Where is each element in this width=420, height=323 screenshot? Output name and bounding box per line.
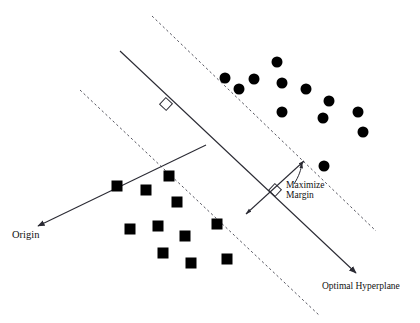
class-b-point — [272, 57, 283, 68]
class-a-point — [153, 221, 164, 232]
class-a-point — [222, 254, 233, 265]
maximize-margin-label: Maximize Margin — [286, 180, 325, 201]
class-b-point — [319, 161, 330, 172]
class-b-point — [301, 84, 312, 95]
class-b-point — [277, 78, 288, 89]
origin-label: Origin — [12, 229, 39, 240]
class-a-point — [112, 181, 123, 192]
data-markers-group — [112, 57, 369, 269]
margin-right-angle — [269, 184, 282, 197]
optimal-hyperplane-label: Optimal Hyperplane — [322, 281, 400, 291]
class-a-point — [141, 185, 152, 196]
class-a-point — [164, 171, 175, 182]
diagram-canvas — [0, 0, 420, 323]
class-b-point — [277, 107, 288, 118]
maximize-margin-line2: Margin — [286, 190, 325, 200]
maximize-margin-line1: Maximize — [286, 180, 325, 190]
class-b-point — [358, 127, 369, 138]
class-b-point — [324, 96, 335, 107]
class-a-point — [125, 224, 136, 235]
hyperplane-normal-right-angle — [160, 98, 173, 111]
class-a-point — [172, 197, 183, 208]
upper-margin-boundary — [152, 16, 376, 231]
lower-margin-boundary — [80, 90, 320, 316]
class-a-point — [186, 258, 197, 269]
class-a-point — [180, 231, 191, 242]
class-b-point — [353, 107, 364, 118]
svm-diagram-figure: Origin Optimal Hyperplane Maximize Margi… — [0, 0, 420, 323]
class-b-point — [249, 74, 260, 85]
class-b-point — [318, 113, 329, 124]
class-b-point — [220, 73, 231, 84]
class-a-point — [212, 219, 223, 230]
class-a-point — [158, 248, 169, 259]
class-b-point — [234, 84, 245, 95]
